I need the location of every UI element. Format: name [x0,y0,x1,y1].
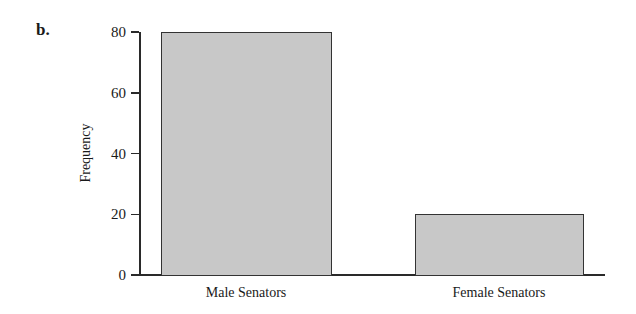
y-tick [131,274,139,276]
x-category-label: Male Senators [206,285,286,301]
panel-label: b. [36,20,50,40]
y-tick-label: 0 [96,267,126,283]
bar-male-senators [161,32,332,276]
y-tick [131,153,139,155]
x-category-label: Female Senators [453,285,546,301]
bar-female-senators [415,214,584,276]
y-tick-label: 20 [96,206,126,222]
y-tick-label: 40 [96,146,126,162]
y-tick [131,214,139,216]
y-axis-label: Frequency [78,123,94,182]
y-tick [131,92,139,94]
y-axis-line [139,32,141,275]
y-tick-label: 80 [96,24,126,40]
y-tick [131,31,139,33]
y-tick-label: 60 [96,85,126,101]
